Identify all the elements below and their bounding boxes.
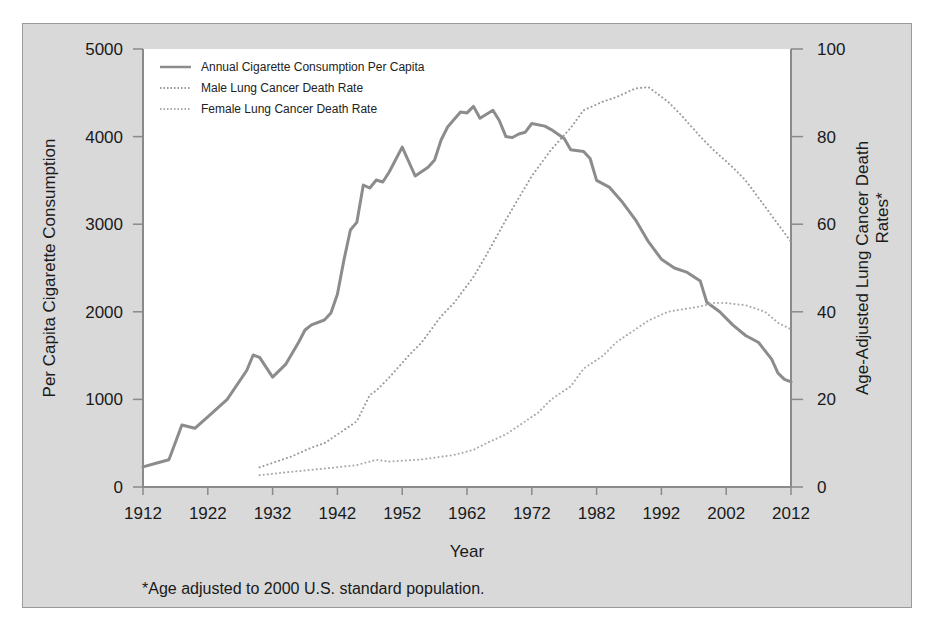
x-tick-label: 2002 bbox=[707, 504, 745, 523]
x-tick-label: 1912 bbox=[124, 504, 162, 523]
y-tick-label: 0 bbox=[114, 478, 123, 497]
x-tick-label: 1982 bbox=[578, 504, 616, 523]
legend-label-female: Female Lung Cancer Death Rate bbox=[201, 102, 377, 116]
y2-axis-title-line1: Age-Adjusted Lung Cancer Death bbox=[853, 141, 872, 395]
y-tick-label: 5000 bbox=[85, 40, 123, 59]
y2-tick-label: 20 bbox=[817, 390, 836, 409]
legend-label-cigarette: Annual Cigarette Consumption Per Capita bbox=[201, 60, 425, 74]
x-tick-label: 2012 bbox=[772, 504, 810, 523]
y-tick-label: 3000 bbox=[85, 215, 123, 234]
y2-tick-label: 100 bbox=[817, 40, 845, 59]
x-tick-label: 1972 bbox=[513, 504, 551, 523]
x-tick-label: 1922 bbox=[189, 504, 227, 523]
x-tick-label: 1932 bbox=[254, 504, 292, 523]
x-tick-label: 1962 bbox=[448, 504, 486, 523]
chart: 1912192219321942195219621972198219922002… bbox=[0, 0, 931, 630]
x-tick-label: 1952 bbox=[383, 504, 421, 523]
y-axis-title: Per Capita Cigarette Consumption bbox=[40, 139, 59, 398]
x-tick-label: 1942 bbox=[318, 504, 356, 523]
y2-axis-title-line2: Rates* bbox=[873, 192, 892, 243]
x-axis-title: Year bbox=[450, 542, 485, 561]
legend-label-male: Male Lung Cancer Death Rate bbox=[201, 81, 363, 95]
y-tick-label: 2000 bbox=[85, 303, 123, 322]
x-tick-label: 1992 bbox=[642, 504, 680, 523]
y-tick-label: 1000 bbox=[85, 390, 123, 409]
y2-tick-label: 80 bbox=[817, 128, 836, 147]
y-tick-label: 4000 bbox=[85, 128, 123, 147]
footnote: *Age adjusted to 2000 U.S. standard popu… bbox=[142, 580, 484, 597]
y2-tick-label: 0 bbox=[817, 478, 826, 497]
y2-tick-label: 40 bbox=[817, 303, 836, 322]
y2-tick-label: 60 bbox=[817, 215, 836, 234]
